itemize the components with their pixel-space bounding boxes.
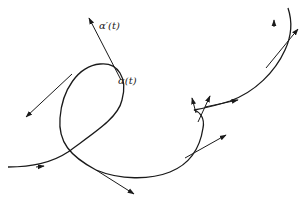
tangent-vector [266, 29, 298, 68]
tangent-vector [96, 170, 134, 194]
tangent-vector [205, 100, 238, 107]
curve-figure [0, 0, 308, 205]
curve-direction-arrow-icon [36, 166, 44, 167]
curve-path [8, 8, 291, 178]
curve-diagram: α′(t) α(t) [0, 0, 308, 205]
label-alpha: α(t) [118, 75, 137, 86]
tangent-vector [185, 135, 226, 158]
label-alpha-prime: α′(t) [99, 20, 120, 31]
tangent-vector [192, 98, 196, 113]
